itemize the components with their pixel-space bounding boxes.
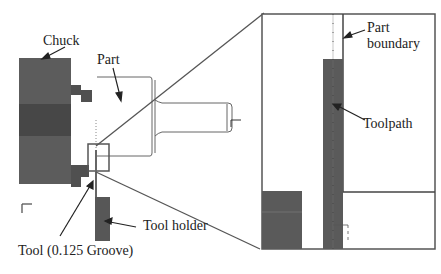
- label-toolpath: Toolpath: [363, 117, 413, 132]
- label-tool: Tool (0.125 Groove): [18, 244, 133, 259]
- label-part: Part: [97, 53, 120, 68]
- chuck: [19, 58, 92, 187]
- label-chuck: Chuck: [43, 34, 80, 49]
- axis-icon: [22, 204, 32, 213]
- zoom-source-box: [88, 144, 109, 171]
- part: [96, 77, 232, 156]
- label-tool-holder: Tool holder: [143, 219, 208, 234]
- tool-holder: [95, 197, 110, 241]
- label-part-boundary-2: boundary: [367, 37, 420, 52]
- label-part-boundary-1: Part: [367, 21, 390, 36]
- zoomed-chuck-jaw: [262, 191, 302, 249]
